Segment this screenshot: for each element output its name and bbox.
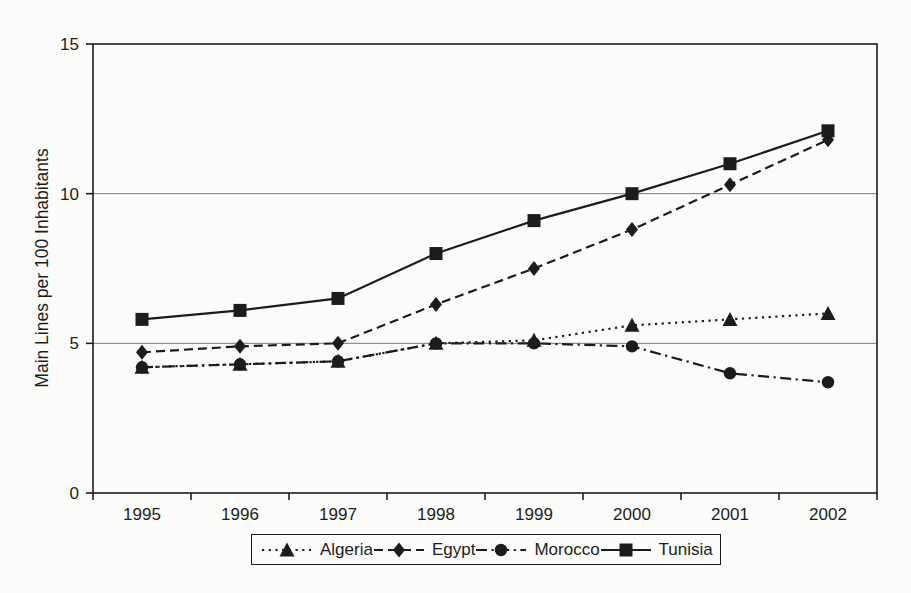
diamond-marker-egypt <box>136 345 148 360</box>
square-marker-tunisia <box>136 313 149 326</box>
y-tick-label: 0 <box>70 484 79 503</box>
legend-label-algeria: Algeria <box>320 540 373 560</box>
x-tick-label: 1998 <box>417 505 455 524</box>
x-tick-label: 2002 <box>809 505 847 524</box>
diamond-marker-egypt <box>528 261 540 276</box>
legend-label-egypt: Egypt <box>432 540 475 560</box>
figure: 05101519951996199719981999200020012002 M… <box>0 0 911 593</box>
legend-label-tunisia: Tunisia <box>659 540 713 560</box>
diamond-marker-egypt <box>626 222 638 237</box>
legend-label-morocco: Morocco <box>534 540 599 560</box>
diamond-legend-marker <box>393 542 405 557</box>
legend-item-morocco: Morocco <box>475 540 599 560</box>
circle-legend-marker <box>495 543 507 555</box>
triangle-marker-algeria <box>625 318 640 332</box>
diamond-marker-egypt <box>332 336 344 351</box>
series-line-egypt <box>142 140 828 353</box>
y-tick-label: 5 <box>70 334 79 353</box>
square-marker-tunisia <box>430 247 443 260</box>
circle-marker-morocco <box>136 361 148 373</box>
square-marker-tunisia <box>822 124 835 137</box>
square-marker-tunisia <box>724 157 737 170</box>
square-legend-marker <box>619 543 632 556</box>
square-marker-tunisia <box>528 214 541 227</box>
circle-marker-morocco <box>626 340 638 352</box>
circle-marker-morocco <box>724 367 736 379</box>
circle-marker-morocco <box>822 376 834 388</box>
line-chart: 05101519951996199719981999200020012002 <box>0 0 911 593</box>
legend-item-algeria: Algeria <box>261 540 373 560</box>
square-marker-tunisia <box>626 187 639 200</box>
triangle-legend-marker <box>280 542 295 556</box>
circle-marker-morocco <box>332 355 344 367</box>
legend-item-egypt: Egypt <box>373 540 475 560</box>
x-tick-label: 2000 <box>613 505 651 524</box>
dotted-triangle-legend-icon <box>261 542 313 558</box>
circle-marker-morocco <box>430 337 442 349</box>
circle-marker-morocco <box>234 358 246 370</box>
legend: Algeria Egypt Morocco Tunisia <box>251 534 721 565</box>
series-tunisia <box>136 124 835 326</box>
diamond-marker-egypt <box>430 297 442 312</box>
dashdot-circle-legend-icon <box>475 542 527 558</box>
square-marker-tunisia <box>234 304 247 317</box>
dashed-diamond-legend-icon <box>373 542 425 558</box>
plot-border <box>93 44 877 493</box>
circle-marker-morocco <box>528 337 540 349</box>
x-tick-label: 1999 <box>515 505 553 524</box>
solid-square-legend-icon <box>600 542 652 558</box>
y-tick-label: 10 <box>60 185 79 204</box>
x-tick-label: 2001 <box>711 505 749 524</box>
square-marker-tunisia <box>332 292 345 305</box>
y-axis-title: Main Lines per 100 Inhabitants <box>31 38 53 498</box>
x-tick-label: 1997 <box>319 505 357 524</box>
diamond-marker-egypt <box>724 177 736 192</box>
diamond-marker-egypt <box>234 339 246 354</box>
legend-item-tunisia: Tunisia <box>600 540 713 560</box>
y-tick-label: 15 <box>60 35 79 54</box>
x-tick-label: 1995 <box>123 505 161 524</box>
x-tick-label: 1996 <box>221 505 259 524</box>
